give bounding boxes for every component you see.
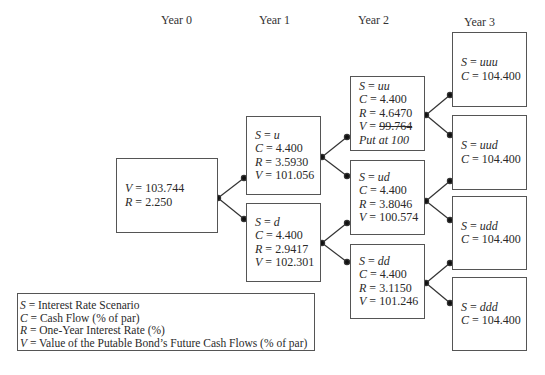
node-uu: S = uu C = 4.400 R = 4.6470 V = 99.764 P… — [350, 76, 425, 151]
node-ud: S = ud C = 4.400 R = 3.8046 V = 100.574 — [350, 160, 425, 235]
legend-item-v: V = Value of the Putable Bond’s Future C… — [20, 337, 314, 350]
eq: = — [366, 294, 379, 308]
node-udd: S = udd C = 104.400 — [452, 196, 527, 270]
put-note: Put at 100 — [359, 134, 424, 148]
c-symbol: C — [359, 92, 367, 106]
legend-item-c: C = Cash Flow (% of par) — [20, 312, 314, 325]
rate: 2.9417 — [275, 242, 308, 256]
node-root: V = 103.744 R = 2.250 — [116, 158, 218, 233]
c-symbol: C — [461, 313, 469, 327]
value: 101.056 — [275, 168, 314, 182]
scenario: uud — [480, 138, 498, 152]
cash-flow: 104.400 — [482, 232, 521, 246]
eq: = — [365, 79, 378, 93]
eq: = — [469, 313, 482, 327]
eq: = — [469, 69, 482, 83]
eq: = — [263, 228, 276, 242]
cash-flow: 4.400 — [380, 267, 407, 281]
legend-text: = Interest Rate Scenario — [26, 299, 140, 311]
node-ddd: S = ddd C = 104.400 — [452, 277, 527, 351]
scenario: uu — [378, 79, 390, 93]
legend-text: = One-Year Interest Rate (%) — [27, 324, 165, 336]
node-dd: S = dd C = 4.400 R = 3.1150 V = 101.246 — [350, 244, 425, 319]
value: 102.301 — [275, 255, 314, 269]
c-symbol: C — [255, 228, 263, 242]
c-symbol: C — [255, 141, 263, 155]
eq: = — [262, 255, 275, 269]
cash-flow: 104.400 — [482, 69, 521, 83]
cash-flow: 4.400 — [380, 92, 407, 106]
eq: = — [366, 106, 379, 120]
eq: = — [262, 242, 275, 256]
c-symbol: C — [461, 69, 469, 83]
eq: = — [469, 232, 482, 246]
eq: = — [365, 170, 378, 184]
eq: = — [132, 195, 145, 209]
legend-item-r: R = One-Year Interest Rate (%) — [20, 324, 314, 337]
c-symbol: C — [461, 152, 469, 166]
scenario: ddd — [480, 300, 498, 314]
eq: = — [366, 197, 379, 211]
value: 100.574 — [379, 210, 418, 224]
legend-item-s: S = Interest Rate Scenario — [20, 299, 314, 312]
cash-flow: 104.400 — [482, 313, 521, 327]
eq: = — [467, 138, 480, 152]
legend-text: = Value of the Putable Bond’s Future Cas… — [27, 337, 307, 349]
cash-flow: 4.400 — [276, 228, 303, 242]
scenario: uuu — [480, 55, 498, 69]
rate: 3.8046 — [379, 197, 412, 211]
eq: = — [469, 152, 482, 166]
eq: = — [366, 119, 379, 133]
root-rate: 2.250 — [145, 195, 172, 209]
eq: = — [366, 210, 379, 224]
legend-symbol: C — [20, 312, 28, 324]
eq: = — [467, 219, 480, 233]
c-symbol: C — [359, 267, 367, 281]
rate: 4.6470 — [379, 106, 412, 120]
value: 101.246 — [379, 294, 418, 308]
node-uud: S = uud C = 104.400 — [452, 115, 527, 190]
eq: = — [367, 267, 380, 281]
eq: = — [367, 183, 380, 197]
scenario: dd — [378, 254, 390, 268]
value-struck: 99.764 — [379, 119, 412, 133]
scenario: ud — [378, 170, 390, 184]
eq: = — [365, 254, 378, 268]
rate: 3.5930 — [275, 155, 308, 169]
cash-flow: 4.400 — [276, 141, 303, 155]
eq: = — [467, 55, 480, 69]
scenario: d — [274, 215, 280, 229]
node-uuu: S = uuu C = 104.400 — [452, 32, 527, 107]
eq: = — [467, 300, 480, 314]
eq: = — [132, 181, 145, 195]
eq: = — [261, 215, 274, 229]
c-symbol: C — [359, 183, 367, 197]
node-u: S = u C = 4.400 R = 3.5930 V = 101.056 — [246, 116, 321, 195]
scenario: udd — [480, 219, 498, 233]
legend-symbol: R — [20, 324, 27, 336]
eq: = — [261, 128, 274, 142]
eq: = — [366, 281, 379, 295]
cash-flow: 4.400 — [380, 183, 407, 197]
node-d: S = d C = 4.400 R = 2.9417 V = 102.301 — [246, 203, 321, 282]
scenario: u — [274, 128, 280, 142]
c-symbol: C — [461, 232, 469, 246]
legend-text: = Cash Flow (% of par) — [28, 312, 140, 324]
eq: = — [262, 168, 275, 182]
eq: = — [262, 155, 275, 169]
legend: S = Interest Rate Scenario C = Cash Flow… — [17, 293, 315, 351]
eq: = — [263, 141, 276, 155]
cash-flow: 104.400 — [482, 152, 521, 166]
eq: = — [367, 92, 380, 106]
root-value: 103.744 — [145, 181, 184, 195]
rate: 3.1150 — [379, 281, 412, 295]
legend-symbol: V — [20, 337, 27, 349]
